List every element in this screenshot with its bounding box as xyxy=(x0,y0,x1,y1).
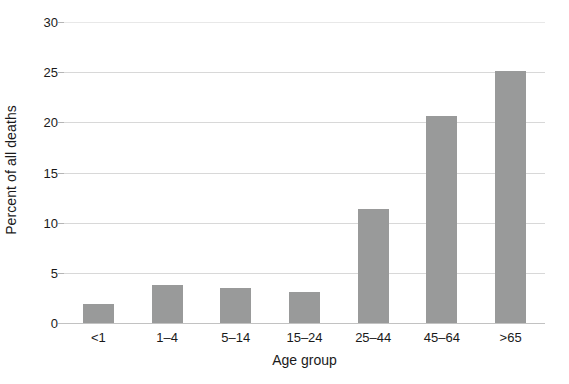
bars-layer xyxy=(64,22,545,323)
x-tick-label: >65 xyxy=(500,330,522,345)
y-tick-label-30: 30 xyxy=(44,16,58,29)
bar xyxy=(358,209,389,323)
bar xyxy=(220,288,251,323)
y-tick-label-0: 0 xyxy=(51,317,58,330)
x-tick-label: 15–24 xyxy=(286,330,322,345)
y-tick-label-5: 5 xyxy=(51,266,58,279)
y-tick-label-15: 15 xyxy=(44,166,58,179)
x-tick-label: 1–4 xyxy=(156,330,178,345)
x-tick-label: 45–64 xyxy=(424,330,460,345)
y-axis-title: Percent of all deaths xyxy=(0,0,22,340)
bar xyxy=(426,116,457,323)
bar-chart: Percent of all deaths 051015202530 <11–4… xyxy=(0,0,569,384)
bar xyxy=(152,285,183,323)
bar xyxy=(495,71,526,323)
x-tick-label: <1 xyxy=(91,330,106,345)
x-axis-line xyxy=(58,323,545,324)
x-axis-tick-labels: <11–45–1415–2425–4445–64>65 xyxy=(64,330,545,350)
y-axis-tick-labels: 051015202530 xyxy=(22,0,64,384)
y-tick-label-10: 10 xyxy=(44,216,58,229)
bar xyxy=(289,292,320,323)
y-tick-label-25: 25 xyxy=(44,66,58,79)
y-axis-title-label: Percent of all deaths xyxy=(3,105,19,235)
x-tick-label: 25–44 xyxy=(355,330,391,345)
y-tick-label-20: 20 xyxy=(44,116,58,129)
x-axis-title: Age group xyxy=(64,352,545,368)
x-tick-label: 5–14 xyxy=(221,330,250,345)
plot-area xyxy=(64,22,545,323)
bar xyxy=(83,304,114,323)
